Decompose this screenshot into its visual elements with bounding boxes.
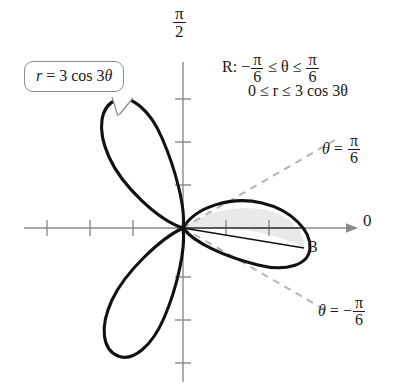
- polar-graph-figure: r = 3 cos 3θ π 2 0 3 R: − π 6 ≤ θ ≤ π 6: [0, 0, 416, 390]
- region-name: R: [222, 58, 233, 75]
- ray-upper-theta-symbol: θ: [322, 140, 330, 157]
- axis-group: [24, 62, 358, 382]
- region-le-3: ≤: [260, 82, 269, 99]
- callout-expression: 3 cos 3: [59, 67, 104, 84]
- ray-upper-equals: =: [334, 140, 343, 157]
- axis-label-pi-over-2-denominator: 2: [173, 23, 186, 40]
- region-theta-lower-sign: −: [241, 58, 250, 75]
- ray-label-theta-plus-pi-over-6: θ = π 6: [322, 134, 361, 168]
- polar-plot-canvas: [0, 0, 416, 390]
- petal-lower-left: [104, 228, 183, 357]
- region-theta-symbol: θ: [281, 58, 289, 75]
- region-le-2: ≤: [293, 58, 302, 75]
- region-description: R: − π 6 ≤ θ ≤ π 6 0 ≤ r ≤ 3 cos 3θ: [222, 52, 348, 108]
- callout-pointer: [111, 96, 133, 116]
- region-r-symbol: r: [273, 82, 278, 99]
- axis-label-pi-over-2: π 2: [172, 6, 187, 42]
- region-r-upper-theta: θ: [340, 82, 348, 99]
- region-r-lower: 0: [248, 82, 256, 99]
- region-theta-bounds: R: − π 6 ≤ θ ≤ π 6: [222, 52, 348, 82]
- axis-label-pi-over-2-numerator: π: [173, 5, 186, 23]
- region-le-1: ≤: [268, 58, 277, 75]
- region-r-bounds: 0 ≤ r ≤ 3 cos 3θ: [222, 82, 348, 108]
- ray-lower-theta-symbol: θ: [318, 302, 326, 319]
- ray-lower-denominator: 6: [353, 312, 365, 328]
- petal-upper-left: [102, 99, 184, 228]
- ray-lower-equals: =: [330, 302, 339, 319]
- ray-lower-numerator: π: [353, 295, 365, 312]
- polar-axis-arrowhead: [346, 223, 358, 233]
- curve-equation-callout: r = 3 cos 3θ: [24, 61, 124, 92]
- ray-label-theta-minus-pi-over-6: θ = − π 6: [318, 296, 366, 330]
- callout-r-symbol: r: [36, 67, 42, 84]
- region-theta-upper-numerator: π: [306, 52, 318, 69]
- callout-theta-symbol: θ: [105, 67, 113, 84]
- region-r-upper-expression: 3 cos 3: [295, 82, 340, 99]
- ray-upper-numerator: π: [348, 133, 360, 150]
- region-colon: :: [233, 58, 237, 75]
- region-theta-lower-numerator: π: [251, 52, 263, 69]
- axis-label-zero: 0: [363, 212, 372, 229]
- region-le-4: ≤: [282, 82, 291, 99]
- ray-lower-sign: −: [343, 302, 352, 319]
- ray-upper-denominator: 6: [348, 150, 360, 166]
- petal-tip-label-three: 3: [309, 238, 318, 255]
- callout-equals: =: [46, 67, 55, 84]
